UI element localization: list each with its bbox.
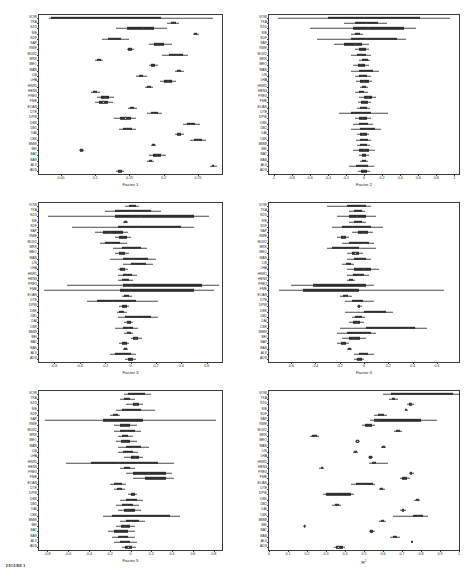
y-tick-label-factor2-RWE: RWE [259, 48, 267, 51]
panel-factor2: Factor 2 -1-0.8-0.6-0.4-0.200.20.40.60.8… [268, 14, 460, 175]
y-tick-factor2-FRE3 [267, 97, 269, 98]
x-tick-label-factor2-4: -0.2 [343, 177, 349, 181]
x-tick-label-factor5-1: -0.6 [65, 553, 71, 557]
interval-box [126, 520, 138, 522]
interval-box [123, 284, 202, 286]
interval-box [118, 226, 182, 228]
y-tick-label-r2-DBK: DBK [260, 498, 267, 501]
interval-box [112, 514, 170, 516]
y-tick-factor5-SAP [37, 420, 39, 421]
y-tick-factor1-FME [37, 102, 39, 103]
x-tick-label-r2-1: 0.1 [286, 553, 291, 557]
interval-box [91, 461, 158, 463]
y-tick-factor4-MAN [267, 259, 269, 260]
interval-box [347, 204, 366, 206]
interval-box [125, 316, 150, 318]
interval-box [351, 38, 396, 40]
interval-box [103, 231, 123, 233]
x-tick-label-factor5-0: -0.8 [44, 553, 50, 557]
y-tick-factor4-FME [267, 290, 269, 291]
y-tick-label-factor5-MRK: MRK [29, 434, 37, 437]
y-tick-label-factor2-MEO: MEO [259, 64, 267, 67]
y-tick-factor3-SZG [37, 216, 39, 217]
y-tick-label-r2-HNR1: HNR1 [258, 461, 267, 464]
y-tick-label-factor5-SAP: SAP [30, 418, 37, 421]
y-tick-factor4-FRE3 [267, 285, 269, 286]
y-tick-r2-MUV2 [267, 431, 269, 432]
y-tick-label-factor4-CBK: CBK [260, 326, 267, 329]
y-tick-factor5-DPW [37, 494, 39, 495]
y-tick-label-factor1-SZG: SZG [30, 27, 37, 30]
y-tick-factor1-DBK [37, 124, 39, 125]
y-tick-factor5-LIN [37, 452, 39, 453]
y-tick-factor1-DAI [37, 134, 39, 135]
y-tick-label-factor1-MUV2: MUV2 [28, 53, 37, 56]
y-tick-r2-LHA [267, 457, 269, 458]
y-tick-factor2-HEN3 [267, 92, 269, 93]
y-tick-label-r2-TKA: TKA [260, 397, 267, 400]
y-tick-factor1-CBK [37, 140, 39, 141]
y-tick-factor4-DBK [267, 312, 269, 313]
y-tick-label-factor4-DTE: DTE [260, 299, 267, 302]
y-tick-factor1-HEN3 [37, 92, 39, 93]
y-tick-factor5-CBK [37, 516, 39, 517]
interval-box [347, 332, 371, 334]
y-tick-label-factor2-MUV2: MUV2 [258, 53, 267, 56]
y-tick-factor5-TKA [37, 399, 39, 400]
y-tick-factor1-LHA [37, 81, 39, 82]
y-tick-label-factor4-TKA: TKA [260, 209, 267, 212]
y-tick-label-factor3-DB1: DB1 [30, 315, 37, 318]
y-tick-r2-CBK [267, 516, 269, 517]
y-tick-factor2-MAN [267, 71, 269, 72]
y-tick-label-factor1-HNR1: HNR1 [28, 85, 37, 88]
interval-box [122, 247, 141, 249]
x-tick-label-factor1-4: 0.25 [195, 177, 202, 181]
y-tick-label-factor5-SZG: SZG [30, 403, 37, 406]
y-tick-label-r2-FRE3: FRE3 [258, 471, 267, 474]
x-tick-label-r2-4: 0.4 [343, 553, 348, 557]
y-tick-factor1-DPW [37, 118, 39, 119]
y-tick-label-factor3-LHA: LHA [30, 268, 37, 271]
median-marker [405, 408, 407, 410]
y-tick-factor4-DB1 [267, 317, 269, 318]
y-tick-label-r2-ADS: ADS [260, 546, 267, 549]
y-tick-factor4-MEO [267, 253, 269, 254]
x-tick-label-factor5-3: -0.2 [107, 553, 113, 557]
y-tick-factor5-FME [37, 478, 39, 479]
y-tick-label-factor3-HNR1: HNR1 [28, 273, 37, 276]
y-tick-r2-BMW [267, 521, 269, 522]
y-tick-label-factor2-DBK: DBK [260, 122, 267, 125]
x-tick-label-factor1-2: 0.15 [126, 177, 133, 181]
y-tick-factor5-DTE [37, 489, 39, 490]
y-tick-factor4-HEN3 [267, 280, 269, 281]
y-tick-r2-BEI [267, 526, 269, 527]
x-axis-title-factor3: Factor 3 [39, 371, 222, 375]
y-tick-label-factor2-MRK: MRK [259, 58, 267, 61]
x-tick-label-factor4-4: 0.2 [386, 365, 391, 369]
y-tick-label-factor2-HEN3: HEN3 [258, 90, 267, 93]
y-tick-label-factor1-DB1: DB1 [30, 127, 37, 130]
y-tick-factor5-LHA [37, 457, 39, 458]
x-axis-title-factor1: Factor 1 [39, 183, 222, 187]
y-tick-factor2-BAY [267, 155, 269, 156]
y-tick-label-factor4-MUV2: MUV2 [258, 241, 267, 244]
y-tick-factor3-SIE [37, 222, 39, 223]
y-tick-label-factor3-SAP: SAP [30, 230, 37, 233]
y-tick-factor4-BEI [267, 338, 269, 339]
y-tick-factor3-MEO [37, 253, 39, 254]
y-tick-label-factor4-HEN3: HEN3 [258, 278, 267, 281]
y-tick-factor4-SAP [267, 232, 269, 233]
y-tick-factor4-DAI [267, 322, 269, 323]
y-tick-factor3-CBK [37, 328, 39, 329]
y-tick-label-factor4-DBK: DBK [260, 310, 267, 313]
y-tick-factor5-MRK [37, 436, 39, 437]
x-tick-label-factor3-1: -0.4 [77, 365, 83, 369]
y-tick-r2-RWE [267, 425, 269, 426]
y-tick-factor1-SIE [37, 34, 39, 35]
interval-box [124, 509, 134, 511]
y-tick-factor1-BEI [37, 150, 39, 151]
y-tick-r2-BAS [267, 537, 269, 538]
y-tick-factor1-BAY [37, 155, 39, 156]
y-tick-factor5-SDF [37, 415, 39, 416]
x-tick-label-r2-7: 0.7 [400, 553, 405, 557]
